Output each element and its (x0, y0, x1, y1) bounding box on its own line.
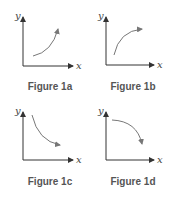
x-axis-label-1b: x (157, 59, 163, 70)
y-axis-label-1a: y (15, 10, 21, 21)
figure-1c (23, 112, 73, 160)
x-axis-label-1d: x (157, 154, 163, 165)
curve (112, 120, 142, 144)
caption-figure-1a: Figure 1a (20, 81, 80, 92)
x-axis-label-1a: x (76, 60, 82, 71)
figures-canvas (0, 0, 178, 197)
y-axis-label-1c: y (15, 105, 21, 116)
caption-figure-1c: Figure 1c (20, 176, 80, 187)
curve (33, 29, 58, 56)
curve (114, 29, 142, 55)
figure-1d (106, 112, 154, 160)
x-axis-label-1c: x (76, 154, 82, 165)
figure-1b (106, 17, 154, 65)
y-axis-label-1d: y (98, 105, 104, 116)
y-axis-label-1b: y (98, 10, 104, 21)
caption-figure-1d: Figure 1d (103, 176, 163, 187)
curve (32, 115, 60, 145)
figure-1a (23, 17, 73, 66)
caption-figure-1b: Figure 1b (103, 81, 163, 92)
